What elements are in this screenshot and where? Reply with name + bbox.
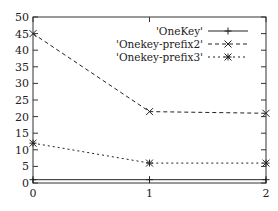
x-tick-label: 2 (263, 187, 270, 200)
legend-label: 'OneKey' (156, 25, 203, 37)
y-tick-label: 0 (22, 177, 29, 190)
data-point-marker (146, 176, 153, 183)
y-tick-label: 40 (15, 44, 29, 57)
x-tick-label: 1 (146, 187, 153, 200)
legend-label: 'Onekey-prefix2' (116, 38, 203, 50)
y-tick-label: 30 (15, 77, 29, 90)
data-point-marker (263, 160, 270, 167)
legend-label: 'Onekey-prefix3' (116, 51, 203, 63)
y-tick-label: 15 (15, 127, 29, 140)
legend-marker (225, 54, 232, 61)
y-tick-label: 35 (15, 61, 29, 74)
legend-marker (225, 28, 232, 35)
series-0 (30, 176, 270, 183)
y-tick-label: 45 (15, 28, 29, 41)
data-point-marker (263, 176, 270, 183)
series-2 (30, 140, 270, 167)
x-tick-label: 0 (30, 187, 37, 200)
line-chart: 05101520253035404550012 'OneKey''Onekey-… (0, 0, 278, 211)
data-point-marker (30, 176, 37, 183)
legend: 'OneKey''Onekey-prefix2''Onekey-prefix3' (116, 25, 248, 63)
y-tick-label: 10 (15, 144, 29, 157)
data-point-marker (30, 140, 37, 147)
y-tick-label: 50 (15, 11, 29, 24)
data-point-marker (146, 160, 153, 167)
y-tick-label: 5 (22, 160, 29, 173)
y-tick-label: 25 (15, 94, 29, 107)
y-tick-label: 20 (15, 111, 29, 124)
